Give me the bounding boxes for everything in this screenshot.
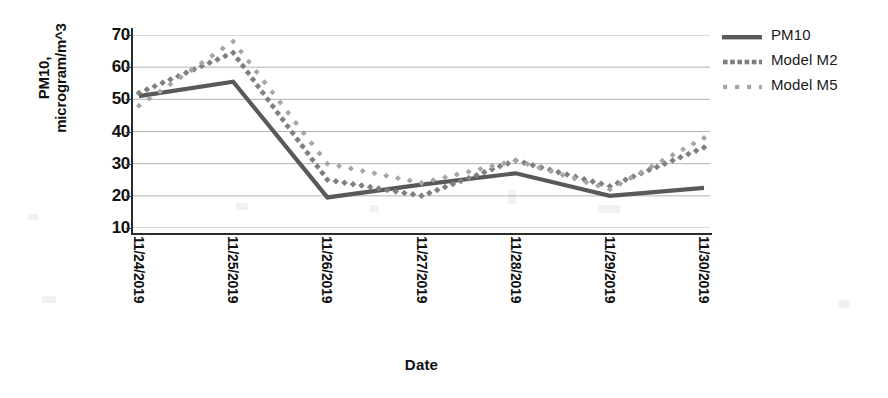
- legend-swatch-icon: [722, 29, 762, 41]
- series-dot: [183, 70, 190, 77]
- series-dot: [341, 179, 348, 186]
- y-axis-tick-label: 60: [96, 57, 130, 77]
- series-dot: [442, 184, 449, 191]
- series-dot: [250, 76, 257, 83]
- series-dot: [299, 143, 306, 150]
- series-dot: [209, 53, 215, 59]
- y-axis-tick-mark: [126, 67, 132, 68]
- series-dot: [230, 49, 237, 56]
- series-dot: [294, 136, 301, 143]
- legend-item-model-m5[interactable]: Model M5: [722, 72, 886, 97]
- series-dot: [530, 162, 537, 169]
- x-axis-tick: 11/28/2019: [507, 236, 525, 348]
- x-axis-tick-label: 11/27/2019: [414, 236, 430, 303]
- series-dot: [309, 156, 316, 163]
- legend-label: PM10: [771, 26, 811, 43]
- legend-item-pm10[interactable]: PM10: [722, 22, 886, 47]
- y-axis-tick-label: 10: [96, 218, 130, 238]
- series-dot: [235, 56, 242, 63]
- series-dot: [669, 157, 676, 164]
- x-axis-tick-label: 11/28/2019: [508, 236, 524, 303]
- series-dot: [319, 170, 326, 177]
- series-dot: [513, 157, 519, 163]
- x-axis-tick: 11/29/2019: [601, 236, 619, 348]
- series-dot: [245, 69, 252, 76]
- x-axis-tick-label: 11/29/2019: [602, 236, 618, 303]
- series-dot: [680, 146, 686, 152]
- y-axis-tick-mark: [126, 196, 132, 197]
- y-axis-tick-mark: [126, 99, 132, 100]
- y-axis-title-line-1: PM10,: [36, 57, 53, 99]
- series-dot: [144, 86, 151, 93]
- series-dot: [279, 116, 286, 123]
- series-dot: [285, 110, 291, 116]
- series-dot: [401, 190, 408, 197]
- y-axis-tick-label: 70: [96, 25, 130, 45]
- x-axis-tick: 11/25/2019: [224, 236, 242, 348]
- series-dot: [358, 182, 365, 189]
- y-axis-title-line-2: microgram/m^3: [53, 23, 70, 133]
- series-dot: [371, 170, 377, 176]
- series-dot: [270, 103, 277, 110]
- y-axis-tick-label: 30: [96, 154, 130, 174]
- series-dot: [622, 176, 629, 183]
- series-dot: [383, 173, 389, 179]
- series-dot: [317, 151, 323, 157]
- plot-area: [133, 35, 710, 228]
- series-dot: [670, 152, 676, 158]
- series-dot: [262, 79, 268, 85]
- series-dot: [167, 81, 173, 87]
- series-dot: [701, 144, 708, 151]
- series-dot: [277, 100, 283, 106]
- x-axis-line: [131, 233, 712, 235]
- series-dot: [691, 141, 697, 147]
- series-dot: [304, 150, 311, 157]
- series-dot: [685, 151, 692, 158]
- series-dot: [289, 130, 296, 137]
- y-axis-tick-label: 20: [96, 186, 130, 206]
- series-dot: [269, 89, 275, 95]
- x-axis-tick-label: 11/25/2019: [225, 236, 241, 303]
- series-dot: [407, 178, 413, 184]
- legend-label: Model M5: [771, 76, 838, 93]
- series-dot: [254, 69, 260, 75]
- legend-item-model-m2[interactable]: Model M2: [722, 47, 886, 72]
- series-dot: [255, 83, 262, 90]
- series-dot: [260, 90, 267, 97]
- x-axis-tick: 11/30/2019: [695, 236, 713, 348]
- series-dot: [395, 175, 401, 181]
- series-dot: [701, 135, 707, 141]
- series-dot: [159, 80, 166, 87]
- chart-container: PM10, microgram/m^3 10203040506070 11/24…: [0, 0, 888, 398]
- x-axis-tick-label: 11/30/2019: [696, 236, 712, 303]
- series-dot: [426, 190, 433, 197]
- scan-artifact: [28, 214, 38, 220]
- series-dot: [350, 181, 357, 188]
- series-dot: [324, 161, 330, 167]
- series-dot: [348, 166, 354, 172]
- series-dot: [693, 148, 700, 155]
- series-dot: [214, 56, 221, 63]
- series-dot: [418, 193, 425, 200]
- x-axis-tick-label: 11/26/2019: [319, 236, 335, 303]
- series-dot: [454, 172, 460, 178]
- y-axis-tick-label: 50: [96, 89, 130, 109]
- series-layer: [136, 38, 708, 199]
- y-axis-tick-mark: [126, 164, 132, 165]
- x-axis-tick: 11/24/2019: [130, 236, 148, 348]
- x-axis-tick-label: 11/24/2019: [131, 236, 147, 303]
- series-dot: [434, 187, 441, 194]
- scan-artifact: [838, 300, 850, 308]
- series-dot: [324, 176, 331, 183]
- series-dot: [222, 53, 229, 60]
- series-dot: [238, 49, 244, 55]
- series-dot: [410, 191, 417, 198]
- series-dot: [275, 110, 282, 117]
- series-dot: [589, 178, 596, 185]
- series-dots-model-m5: [136, 38, 707, 192]
- series-dot: [220, 46, 226, 52]
- legend-swatch-icon: [722, 79, 762, 91]
- series-dot: [230, 38, 236, 44]
- series-dot: [333, 178, 340, 185]
- series-dot: [265, 96, 272, 103]
